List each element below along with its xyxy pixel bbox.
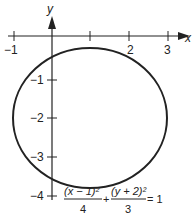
equation-numerator-1: (x − 1)² [64,185,99,197]
y-tick-label: −1 [30,73,44,87]
y-axis-label: y [46,2,54,16]
x-tick-label: 2 [127,43,134,57]
equation-plus: + [103,193,109,205]
diagram-canvas: x y −1 2 3 −1 −2 −3 −4 (x − 1)² 4 + (y +… [0,0,196,221]
y-tick-label: −4 [30,189,44,203]
equation-numerator-2: (y + 2)² [111,185,146,197]
x-axis-label: x [184,31,192,45]
equation-denominator-1: 4 [80,203,86,215]
equation-rhs: = 1 [147,193,163,205]
y-tick-label: −3 [30,150,44,164]
equation-denominator-2: 3 [125,203,131,215]
y-axis-arrow-icon [48,16,56,29]
ellipse-diagram: x y −1 2 3 −1 −2 −3 −4 (x − 1)² 4 + (y +… [0,0,196,221]
x-tick-label: −1 [4,43,18,57]
x-tick-label: 3 [164,43,171,57]
x-ticks: −1 2 3 [4,31,171,57]
equation: (x − 1)² 4 + (y + 2)² 3 = 1 [64,185,163,215]
y-tick-label: −2 [30,111,44,125]
y-ticks: −1 −2 −3 −4 [30,73,57,203]
